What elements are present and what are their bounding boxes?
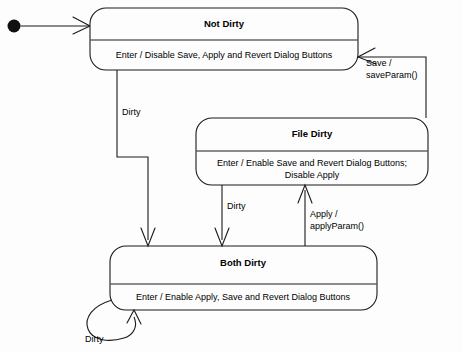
state-both-dirty-action: Enter / Enable Apply, Save and Revert Di…	[136, 292, 350, 302]
transition-save-label-line1: Save /	[366, 58, 392, 68]
transition-dirty-left-line	[117, 70, 148, 240]
transition-dirty-left-label: Dirty	[122, 107, 141, 117]
state-file-dirty[interactable]: File Dirty Enter / Enable Save and Rever…	[196, 118, 428, 185]
state-both-dirty[interactable]: Both Dirty Enter / Enable Apply, Save an…	[110, 246, 377, 310]
state-diagram-canvas: Not Dirty Enter / Disable Save, Apply an…	[0, 0, 463, 353]
transition-apply-label-line2: applyParam()	[310, 221, 364, 231]
transition-file-dirty-to-not-dirty[interactable]: Save / saveParam()	[358, 48, 426, 118]
transition-file-dirty-to-both-dirty[interactable]: Dirty	[215, 185, 246, 246]
transition-self-loop-label: Dirty	[85, 334, 104, 344]
state-file-dirty-title: File Dirty	[292, 128, 333, 139]
state-not-dirty[interactable]: Not Dirty Enter / Disable Save, Apply an…	[90, 8, 358, 70]
state-file-dirty-action-line1: Enter / Enable Save and Revert Dialog Bu…	[217, 158, 407, 168]
transition-both-dirty-to-file-dirty[interactable]: Apply / applyParam()	[298, 185, 364, 246]
transition-save-label-line2: saveParam()	[366, 70, 418, 80]
state-not-dirty-title: Not Dirty	[204, 18, 245, 29]
state-not-dirty-action: Enter / Disable Save, Apply and Revert D…	[116, 50, 333, 60]
transition-dirty-mid-label: Dirty	[227, 201, 246, 211]
initial-state-dot	[8, 20, 21, 33]
transition-apply-label-line1: Apply /	[310, 209, 338, 219]
state-file-dirty-action-line2: Disable Apply	[285, 170, 340, 180]
transition-not-dirty-to-both-dirty[interactable]: Dirty	[117, 70, 155, 246]
state-both-dirty-title: Both Dirty	[220, 257, 267, 268]
